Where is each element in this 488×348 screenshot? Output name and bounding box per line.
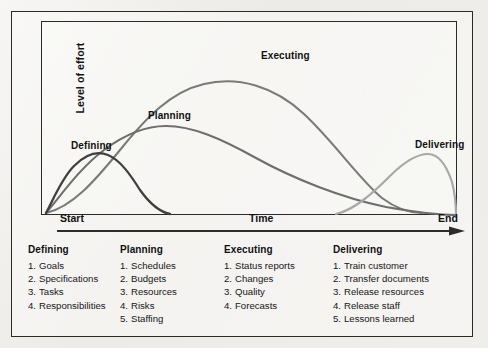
list-item-number: 5. bbox=[120, 312, 131, 325]
axis-label-time: Time bbox=[249, 212, 273, 224]
curve-delivering bbox=[336, 154, 456, 214]
phase-column-delivering: Delivering 1.Train customer 2.Transfer d… bbox=[333, 244, 458, 332]
figure-root: Level of effort Defining Planning Execut… bbox=[0, 0, 488, 348]
time-arrow-icon bbox=[57, 226, 467, 238]
list-item-label: Staffing bbox=[131, 313, 163, 324]
list-item-label: Status reports bbox=[235, 260, 295, 271]
list-item: 2.Specifications bbox=[28, 272, 118, 285]
list-item-label: Changes bbox=[235, 273, 273, 284]
axis-label-start: Start bbox=[60, 212, 84, 224]
outer-frame: Level of effort Defining Planning Execut… bbox=[11, 11, 473, 337]
phase-column-planning: Planning 1.Schedules 2.Budgets 3.Resourc… bbox=[120, 244, 224, 332]
list-item: 2.Transfer documents bbox=[333, 272, 456, 285]
phase-detail-lists: Defining 1.Goals 2.Specifications 3.Task… bbox=[28, 244, 458, 332]
phase-item-list: 1.Status reports 2.Changes 3.Quality 4.F… bbox=[224, 259, 331, 312]
phase-item-list: 1.Goals 2.Specifications 3.Tasks 4.Respo… bbox=[28, 259, 118, 312]
list-item: 3.Quality bbox=[224, 285, 331, 298]
curve-label-delivering: Delivering bbox=[415, 139, 464, 150]
list-item-number: 2. bbox=[224, 272, 235, 285]
list-item-number: 3. bbox=[120, 285, 131, 298]
list-item-number: 4. bbox=[224, 299, 235, 312]
list-item-label: Quality bbox=[235, 286, 265, 297]
list-item: 5.Staffing bbox=[120, 312, 222, 325]
list-item-label: Lessons learned bbox=[344, 313, 414, 324]
list-item-number: 2. bbox=[333, 272, 344, 285]
list-item: 5.Lessons learned bbox=[333, 312, 456, 325]
phase-title: Defining bbox=[28, 244, 118, 255]
list-item-label: Release resources bbox=[344, 286, 424, 297]
list-item: 4.Responsibilities bbox=[28, 299, 118, 312]
list-item-number: 2. bbox=[28, 272, 39, 285]
list-item-number: 3. bbox=[28, 285, 39, 298]
list-item: 2.Budgets bbox=[120, 272, 222, 285]
list-item-number: 4. bbox=[28, 299, 39, 312]
curve-label-planning: Planning bbox=[148, 110, 191, 121]
list-item-label: Forecasts bbox=[235, 300, 277, 311]
y-axis-label: Level of effort bbox=[74, 18, 86, 138]
list-item: 1.Train customer bbox=[333, 259, 456, 272]
list-item: 3.Tasks bbox=[28, 285, 118, 298]
list-item-number: 1. bbox=[120, 259, 131, 272]
phase-title: Delivering bbox=[333, 244, 456, 255]
list-item: 2.Changes bbox=[224, 272, 331, 285]
list-item-label: Release staff bbox=[344, 300, 400, 311]
phase-title: Executing bbox=[224, 244, 331, 255]
list-item: 1.Status reports bbox=[224, 259, 331, 272]
curve-label-defining: Defining bbox=[71, 140, 112, 151]
list-item-label: Goals bbox=[39, 260, 64, 271]
list-item: 4.Risks bbox=[120, 299, 222, 312]
list-item: 3.Resources bbox=[120, 285, 222, 298]
list-item-number: 1. bbox=[224, 259, 235, 272]
list-item-number: 4. bbox=[333, 299, 344, 312]
phase-column-defining: Defining 1.Goals 2.Specifications 3.Task… bbox=[28, 244, 120, 332]
list-item-label: Transfer documents bbox=[344, 273, 429, 284]
list-item: 1.Goals bbox=[28, 259, 118, 272]
list-item: 4.Forecasts bbox=[224, 299, 331, 312]
list-item-label: Train customer bbox=[344, 260, 408, 271]
list-item-label: Resources bbox=[131, 286, 177, 297]
list-item-label: Specifications bbox=[39, 273, 98, 284]
curve-canvas bbox=[42, 22, 458, 216]
list-item: 4.Release staff bbox=[333, 299, 456, 312]
list-item: 1.Schedules bbox=[120, 259, 222, 272]
curve-label-executing: Executing bbox=[261, 50, 310, 61]
chart-plot-area: Level of effort Defining Planning Execut… bbox=[41, 21, 457, 215]
list-item-label: Budgets bbox=[131, 273, 166, 284]
list-item-label: Risks bbox=[131, 300, 154, 311]
phase-item-list: 1.Schedules 2.Budgets 3.Resources 4.Risk… bbox=[120, 259, 222, 325]
list-item-label: Tasks bbox=[39, 286, 64, 297]
axis-label-end: End bbox=[438, 212, 458, 224]
list-item-label: Schedules bbox=[131, 260, 176, 271]
list-item: 3.Release resources bbox=[333, 285, 456, 298]
list-item-number: 3. bbox=[333, 285, 344, 298]
phase-item-list: 1.Train customer 2.Transfer documents 3.… bbox=[333, 259, 456, 325]
list-item-number: 3. bbox=[224, 285, 235, 298]
list-item-label: Responsibilities bbox=[39, 300, 106, 311]
list-item-number: 2. bbox=[120, 272, 131, 285]
time-axis: Start Time End bbox=[41, 210, 469, 238]
phase-title: Planning bbox=[120, 244, 222, 255]
phase-column-executing: Executing 1.Status reports 2.Changes 3.Q… bbox=[224, 244, 333, 332]
list-item-number: 5. bbox=[333, 312, 344, 325]
list-item-number: 1. bbox=[28, 259, 39, 272]
list-item-number: 4. bbox=[120, 299, 131, 312]
list-item-number: 1. bbox=[333, 259, 344, 272]
